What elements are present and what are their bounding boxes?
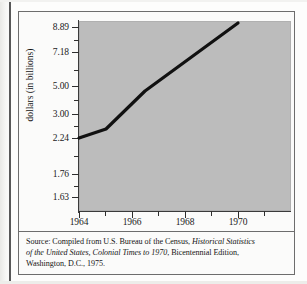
y-tick-minor <box>74 156 79 157</box>
y-tick-minor <box>74 100 79 101</box>
x-tick-label: 1970 <box>218 218 258 228</box>
y-tick-minor <box>74 70 79 71</box>
y-tick-major <box>72 114 79 115</box>
y-tick-label: 5.00 <box>29 82 69 92</box>
y-tick-major <box>72 52 79 53</box>
chart-region: 8.89 7.18 5.00 3.00 2.24 1.76 1.63 1964 … <box>19 12 294 221</box>
x-tick-minor <box>211 211 212 216</box>
x-tick-minor <box>264 211 265 216</box>
y-axis-line <box>78 20 79 213</box>
x-tick-label: 1964 <box>59 218 99 228</box>
y-axis-title: dollars (in billions) <box>25 25 35 145</box>
y-tick-label: 2.24 <box>29 134 69 144</box>
page-gutter-rule <box>9 2 11 282</box>
source-note-line2-title: of the United States, Colonial Times to … <box>26 248 167 257</box>
y-tick-minor <box>74 40 79 41</box>
source-note-line1-prefix: Source: Compiled from U.S. Bureau of the… <box>26 237 192 246</box>
y-tick-major <box>72 86 79 87</box>
y-tick-label: 7.18 <box>29 48 69 58</box>
y-tick-label: 1.76 <box>29 170 69 180</box>
x-tick-label: 1966 <box>112 218 152 228</box>
y-tick-label: 3.00 <box>29 110 69 120</box>
figure-root: 8.89 7.18 5.00 3.00 2.24 1.76 1.63 1964 … <box>0 0 307 284</box>
y-tick-label: 8.89 <box>29 23 69 33</box>
figure-frame: 8.89 7.18 5.00 3.00 2.24 1.76 1.63 1964 … <box>18 11 295 275</box>
source-note-line3: Washington, D.C., 1975. <box>26 259 105 268</box>
y-tick-major <box>72 27 79 28</box>
plot-area <box>79 21 291 211</box>
y-tick-minor <box>74 186 79 187</box>
y-tick-minor <box>74 126 79 127</box>
source-note-divider <box>19 231 294 232</box>
x-tick-label: 1968 <box>165 218 205 228</box>
page-edge-top <box>0 0 307 2</box>
y-tick-major <box>72 174 79 175</box>
source-note: Source: Compiled from U.S. Bureau of the… <box>26 237 288 269</box>
x-tick-minor <box>158 211 159 216</box>
page-gutter-shading <box>0 0 9 284</box>
y-tick-major <box>72 138 79 139</box>
y-tick-major <box>72 197 79 198</box>
x-tick-minor <box>105 211 106 216</box>
source-note-line1-title: Historical Statistics <box>192 237 255 246</box>
y-tick-label: 1.63 <box>29 193 69 203</box>
source-note-line2-suffix: , Bicentennial Edition, <box>167 248 239 257</box>
